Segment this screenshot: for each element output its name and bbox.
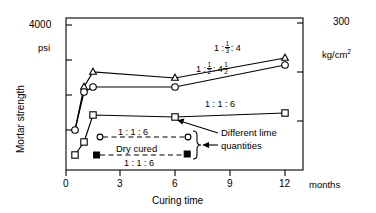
y-axis-left-ticks	[66, 25, 72, 130]
series-label-circle-fraction-1: 12	[207, 62, 213, 76]
x-axis-unit-label: months	[309, 180, 340, 190]
y-axis-right-ticks	[297, 23, 303, 121]
y-axis-title: Mortar strength	[16, 85, 26, 153]
series-label-circle-prefix: 1 :	[196, 64, 206, 74]
y-axis-right-tick-label: 300	[333, 17, 350, 27]
legend-label-bottom: 1 : 1 : 6	[124, 159, 154, 168]
legend-label-dry-cured: Dry cured	[116, 144, 157, 154]
x-axis-tick-label-9: 9	[227, 179, 233, 189]
series-label-circle: 1 :12: 412	[196, 62, 229, 76]
x-axis-tick-label-0: 0	[63, 179, 69, 189]
x-axis-tick-label-12: 12	[279, 179, 290, 189]
fraction-denominator: 2	[207, 68, 213, 76]
chart-figure: 4000 psi Mortar strength 300 kg/cm2 0 3 …	[0, 0, 376, 213]
y-axis-right-unit-label: kg/cm2	[322, 49, 351, 60]
y-axis-right-unit-exponent: 2	[347, 48, 351, 55]
series-label-triangle-suffix: : 4	[231, 43, 241, 53]
legend-callout-line-1: Different lime	[221, 128, 277, 138]
legend-callout-line-2: quantities	[221, 141, 262, 151]
fraction-numerator: 1	[207, 62, 213, 69]
x-axis-tick-label-6: 6	[172, 179, 178, 189]
series-label-circle-fraction-2: 12	[223, 62, 229, 76]
series-label-square: 1 : 1 : 6	[205, 100, 235, 109]
square-series-leader-line	[178, 119, 218, 133]
y-axis-left-unit-label: psi	[38, 43, 50, 53]
series-label-triangle-fraction: 13	[225, 41, 231, 55]
legend-label-top: 1 : 1 : 6	[118, 128, 148, 137]
fraction-numerator: 1	[223, 62, 229, 69]
x-axis-ticks	[66, 170, 285, 176]
series-triangle-line	[75, 58, 285, 130]
y-axis-left-tick-label: 4000	[29, 20, 51, 30]
plot-frame	[66, 18, 303, 170]
x-axis-tick-label-3: 3	[117, 179, 123, 189]
y-axis-right-unit-main: kg/cm	[322, 49, 347, 60]
fraction-denominator: 3	[225, 47, 231, 55]
series-label-triangle-prefix: 1 :	[214, 43, 224, 53]
series-triangle-markers	[81, 54, 289, 89]
series-label-triangle: 1 :13: 4	[214, 41, 241, 55]
legend-brace	[193, 131, 201, 159]
fraction-denominator: 2	[223, 68, 229, 76]
legend-callout-arrow	[204, 143, 219, 147]
fraction-numerator: 1	[225, 41, 231, 48]
series-label-circle-middle: : 4	[213, 64, 223, 74]
x-axis-title: Curing time	[152, 196, 203, 206]
